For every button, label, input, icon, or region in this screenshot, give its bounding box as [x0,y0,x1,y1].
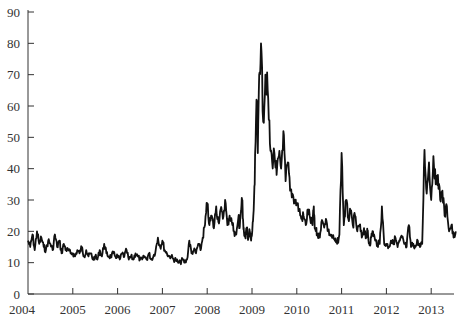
line-chart: 0102030405060708090 20042005200620072008… [0,0,458,328]
y-tick-label: 50 [7,130,20,145]
y-axis: 0102030405060708090 [7,5,34,302]
y-tick-label: 30 [7,193,20,208]
x-tick-label: 2013 [418,302,444,317]
x-axis: 2004200520062007200820092010201120122013 [9,288,454,317]
x-tick-label: 2011 [329,302,355,317]
x-tick-label: 2007 [149,302,176,317]
x-tick-label: 2009 [239,302,265,317]
x-tick-label: 2012 [373,302,399,317]
y-tick-label: 40 [7,161,20,176]
y-tick-label: 0 [14,287,21,302]
y-tick-label: 60 [7,99,20,114]
x-tick-label: 2005 [60,302,86,317]
x-tick-label: 2008 [194,302,220,317]
x-tick-label: 2010 [284,302,310,317]
x-tick-label: 2006 [105,302,132,317]
x-ticks: 2004200520062007200820092010201120122013 [9,288,444,317]
x-tick-label: 2004 [9,302,36,317]
y-tick-label: 70 [7,67,20,82]
y-tick-label: 90 [7,5,20,20]
y-ticks: 0102030405060708090 [7,5,34,302]
y-tick-label: 20 [7,224,20,239]
y-tick-label: 10 [7,255,20,270]
plot-area [28,43,456,264]
y-tick-label: 80 [7,36,20,51]
data-line [28,43,456,264]
